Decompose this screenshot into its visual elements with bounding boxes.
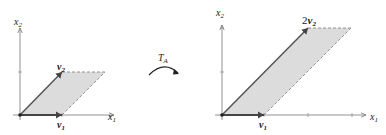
- transform-label: TA: [158, 52, 169, 65]
- x1-axis-label: x1: [369, 111, 378, 124]
- 2v2-label: 2v2: [302, 14, 316, 28]
- origin-dot: [220, 113, 224, 117]
- curved-arrow-head: [173, 69, 179, 75]
- left-diagram: x2 x1 v2 v1: [13, 16, 116, 132]
- parallelogram-fill: [20, 72, 105, 115]
- right-diagram: x2 x1 2v2 v1: [215, 7, 378, 132]
- v1-label: v1: [259, 119, 267, 132]
- transform-arrow: TA: [149, 52, 179, 75]
- origin-dot: [18, 113, 22, 117]
- x2-axis-label: x2: [13, 16, 22, 29]
- diagram-canvas: x2 x1 v2 v1 TA x2 x1 2v2 v1: [0, 0, 386, 135]
- v2-label: v2: [57, 61, 65, 74]
- parallelogram-fill: [222, 28, 351, 115]
- x2-axis-label: x2: [215, 7, 224, 20]
- v1-label: v1: [57, 119, 65, 132]
- x1-axis-label: x1: [107, 111, 116, 124]
